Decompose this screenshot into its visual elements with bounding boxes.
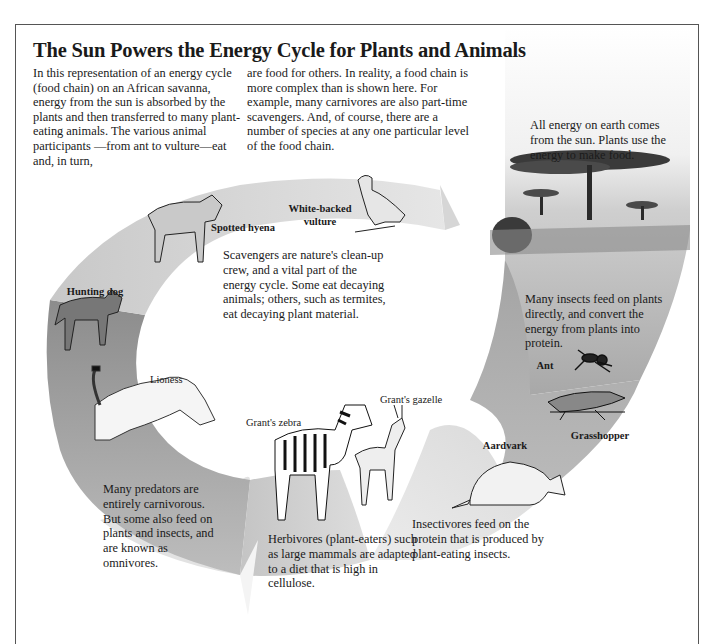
label-grants-zebra: Grant's zebra bbox=[246, 417, 326, 430]
insectivores-caption: Insectivores feed on the protein that is… bbox=[412, 517, 547, 561]
label-white-backed-vulture: White-backed vulture bbox=[285, 203, 355, 228]
label-lioness: Lioness bbox=[150, 374, 210, 387]
insects-caption: Many insects feed on plants directly, an… bbox=[525, 292, 675, 351]
predators-caption: Many predators are entirely carnivorous.… bbox=[103, 482, 223, 571]
intro-text-column-2: are food for others. In reality, a food … bbox=[247, 66, 472, 154]
sun-plants-caption: All energy on earth comes from the sun. … bbox=[530, 118, 680, 162]
label-grants-gazelle: Grant's gazelle bbox=[380, 394, 460, 407]
label-spotted-hyena: Spotted hyena bbox=[203, 222, 283, 235]
label-ant: Ant bbox=[530, 360, 560, 373]
intro-text-column-1: In this representation of an energy cycl… bbox=[33, 66, 243, 168]
page-title: The Sun Powers the Energy Cycle for Plan… bbox=[33, 38, 526, 63]
herbivores-caption: Herbivores (plant-eaters) such as large … bbox=[268, 532, 418, 591]
label-grasshopper: Grasshopper bbox=[560, 430, 640, 443]
label-aardvark: Aardvark bbox=[465, 440, 545, 453]
label-hunting-dog: Hunting dog bbox=[55, 286, 135, 299]
scavengers-caption: Scavengers are nature's clean-up crew, a… bbox=[223, 248, 388, 322]
